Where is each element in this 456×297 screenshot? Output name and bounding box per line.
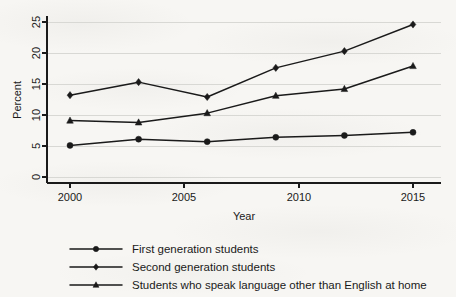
series-line — [70, 24, 413, 97]
y-tick-label-25: 25 — [30, 16, 42, 28]
y-tick-label-0: 0 — [30, 174, 42, 180]
data-point — [136, 136, 142, 142]
chart-figure: 0 5 10 15 20 25 Percent 2000 2005 2010 2… — [0, 0, 456, 297]
y-tick-label-20: 20 — [30, 47, 42, 59]
data-point — [410, 62, 417, 68]
legend-item-2[interactable]: Second generation students — [70, 261, 275, 273]
data-point — [341, 132, 347, 138]
series-line — [70, 66, 413, 122]
y-tick-label-5: 5 — [30, 143, 42, 149]
series-2 — [67, 21, 416, 101]
legend-circle-marker — [93, 246, 98, 251]
y-tick-label-10: 10 — [30, 109, 42, 121]
y-axis-title: Percent — [11, 81, 23, 119]
legend-item-1[interactable]: First generation students — [70, 243, 259, 255]
chart-legend: First generation studentsSecond generati… — [70, 243, 427, 291]
x-tick-label-2015: 2015 — [401, 191, 425, 203]
data-point — [273, 64, 279, 71]
data-point — [67, 142, 73, 148]
x-axis-title: Year — [233, 210, 256, 222]
series-3 — [67, 62, 417, 125]
gridlines — [47, 22, 441, 177]
data-point — [342, 48, 348, 55]
legend-diamond-marker — [93, 264, 98, 270]
data-point — [67, 92, 73, 99]
x-tick-label-2010: 2010 — [287, 191, 311, 203]
data-point — [136, 79, 142, 86]
x-axis-tick-labels: 2000 2005 2010 2015 — [58, 191, 425, 203]
x-tick-label-2005: 2005 — [172, 191, 196, 203]
legend-label: Students who speak language other than E… — [132, 279, 427, 291]
y-axis-tick-labels: 0 5 10 15 20 25 — [30, 16, 42, 180]
x-tick-label-2000: 2000 — [58, 191, 82, 203]
data-series-layer — [67, 21, 417, 149]
x-axis-ticks — [70, 183, 413, 188]
data-point — [273, 134, 279, 140]
legend-item-3[interactable]: Students who speak language other than E… — [70, 279, 427, 291]
series-line — [70, 132, 413, 145]
data-point — [204, 93, 210, 100]
y-axis-ticks — [42, 22, 47, 177]
y-tick-label-15: 15 — [30, 78, 42, 90]
legend-label: First generation students — [132, 243, 259, 255]
line-chart: 0 5 10 15 20 25 Percent 2000 2005 2010 2… — [0, 0, 456, 297]
data-point — [204, 139, 210, 145]
legend-label: Second generation students — [132, 261, 275, 273]
data-point — [410, 129, 416, 135]
